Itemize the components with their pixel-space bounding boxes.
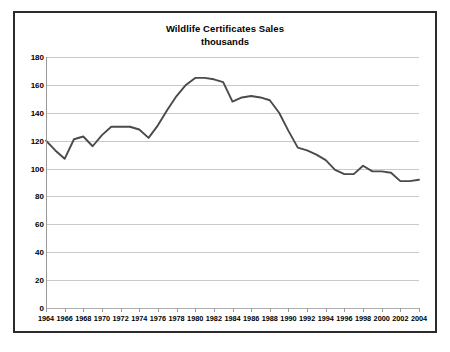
- y-tick-label: 20: [20, 276, 44, 285]
- chart-title: Wildlife Certificates Sales: [15, 22, 435, 35]
- x-tick-label: 1974: [131, 314, 147, 323]
- y-axis-tick-labels: 020406080100120140160180: [17, 57, 44, 308]
- x-tick-label: 2000: [374, 314, 390, 323]
- x-tick-label: 2004: [411, 314, 427, 323]
- x-tick-label: 1986: [243, 314, 259, 323]
- x-tick: [65, 308, 66, 312]
- x-tick-label: 1964: [38, 314, 54, 323]
- y-tick-label: 120: [20, 136, 44, 145]
- x-tick-label: 1988: [262, 314, 278, 323]
- y-tick-label: 160: [20, 80, 44, 89]
- x-tick-label: 1972: [112, 314, 128, 323]
- y-axis-line: [46, 57, 47, 309]
- x-tick: [419, 308, 420, 312]
- x-tick-label: 1968: [75, 314, 91, 323]
- x-tick: [46, 308, 47, 312]
- series-line-chart: [46, 57, 419, 308]
- x-tick: [233, 308, 234, 312]
- y-tick-label: 180: [20, 53, 44, 62]
- x-tick: [307, 308, 308, 312]
- plot-area: [46, 57, 419, 308]
- x-axis-ticks: [46, 308, 419, 313]
- x-tick: [251, 308, 252, 312]
- x-tick: [270, 308, 271, 312]
- x-tick: [363, 308, 364, 312]
- x-tick-label: 1982: [206, 314, 222, 323]
- x-tick: [158, 308, 159, 312]
- x-tick: [382, 308, 383, 312]
- x-tick: [344, 308, 345, 312]
- x-tick: [121, 308, 122, 312]
- x-tick-label: 2002: [392, 314, 408, 323]
- x-tick-label: 1978: [168, 314, 184, 323]
- y-tick-label: 0: [20, 304, 44, 313]
- x-axis-tick-labels: 1964196619681970197219741976197819801982…: [46, 314, 419, 328]
- x-tick-label: 1966: [57, 314, 73, 323]
- chart-frame: Wildlife Certificates Sales thousands 02…: [13, 11, 437, 333]
- x-tick: [195, 308, 196, 312]
- x-tick-label: 1976: [150, 314, 166, 323]
- x-tick: [400, 308, 401, 312]
- x-tick: [214, 308, 215, 312]
- x-tick: [139, 308, 140, 312]
- y-tick-label: 140: [20, 108, 44, 117]
- x-tick: [102, 308, 103, 312]
- x-tick: [288, 308, 289, 312]
- x-tick-label: 1996: [336, 314, 352, 323]
- chart-subtitle: thousands: [15, 35, 435, 48]
- x-tick: [83, 308, 84, 312]
- x-tick-label: 1984: [224, 314, 240, 323]
- y-tick-label: 40: [20, 248, 44, 257]
- y-tick-label: 100: [20, 164, 44, 173]
- x-tick: [326, 308, 327, 312]
- x-tick-label: 1990: [280, 314, 296, 323]
- x-tick-label: 1980: [187, 314, 203, 323]
- x-tick-label: 1998: [355, 314, 371, 323]
- series-line: [46, 78, 419, 181]
- x-tick-label: 1994: [318, 314, 334, 323]
- x-tick-label: 1992: [299, 314, 315, 323]
- x-tick-label: 1970: [94, 314, 110, 323]
- y-tick-label: 60: [20, 220, 44, 229]
- x-tick: [177, 308, 178, 312]
- y-tick-label: 80: [20, 192, 44, 201]
